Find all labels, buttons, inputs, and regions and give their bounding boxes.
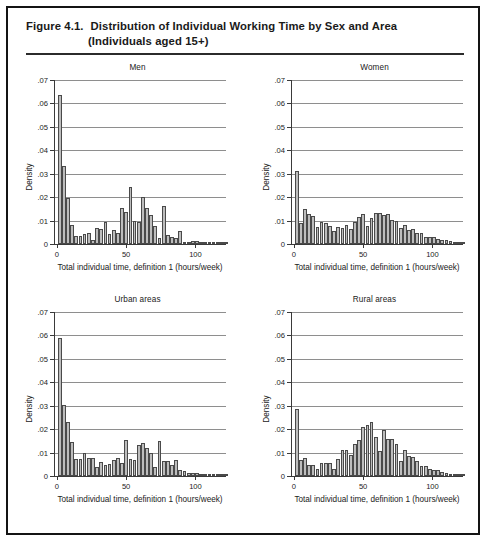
y-tick-label: .04 bbox=[274, 378, 285, 387]
x-tick-mark bbox=[57, 476, 58, 480]
y-tick-label: 0 bbox=[281, 472, 285, 481]
panel-women: WomenDensity0.01.02.03.04.05.06.07050100… bbox=[245, 58, 482, 295]
y-tick-label: .07 bbox=[37, 76, 48, 85]
y-tick-label: .04 bbox=[37, 146, 48, 155]
y-tick-label: .05 bbox=[37, 354, 48, 363]
figure-container: Figure 4.1. Distribution of Individual W… bbox=[6, 6, 480, 535]
x-tick-mark bbox=[195, 476, 196, 480]
y-tick-label: .05 bbox=[274, 122, 285, 131]
plot-area: 0.01.02.03.04.05.06.07050100 bbox=[54, 312, 226, 476]
y-tick-label: .04 bbox=[37, 378, 48, 387]
x-tick-mark bbox=[294, 476, 295, 480]
histogram-bars bbox=[55, 80, 226, 244]
panel-title: Rural areas bbox=[245, 295, 482, 304]
x-axis-label: Total individual time, definition 1 (hou… bbox=[291, 495, 463, 504]
panel-rural-areas: Rural areasDensity0.01.02.03.04.05.06.07… bbox=[245, 290, 482, 527]
x-tick-mark bbox=[126, 476, 127, 480]
x-tick-label: 0 bbox=[55, 250, 59, 259]
y-axis-label: Density bbox=[25, 395, 34, 422]
x-tick-label: 100 bbox=[426, 250, 439, 259]
x-tick-label: 0 bbox=[292, 250, 296, 259]
histogram-bar bbox=[461, 242, 465, 244]
panel-title: Urban areas bbox=[8, 295, 245, 304]
y-tick-label: .07 bbox=[37, 308, 48, 317]
y-tick-label: .06 bbox=[274, 99, 285, 108]
y-tick-label: .03 bbox=[37, 401, 48, 410]
y-tick-label: 0 bbox=[44, 240, 48, 249]
panel-title: Women bbox=[245, 63, 482, 72]
x-tick-mark bbox=[432, 476, 433, 480]
figure-title-row: Figure 4.1. Distribution of Individual W… bbox=[26, 19, 464, 34]
histogram-bar bbox=[224, 474, 228, 476]
x-tick-label: 100 bbox=[189, 482, 202, 491]
y-tick-label: .05 bbox=[274, 354, 285, 363]
x-tick-mark bbox=[363, 244, 364, 248]
x-axis-label: Total individual time, definition 1 (hou… bbox=[291, 263, 463, 272]
y-tick-label: 0 bbox=[44, 472, 48, 481]
x-tick-mark bbox=[432, 244, 433, 248]
x-tick-mark bbox=[195, 244, 196, 248]
x-tick-mark bbox=[294, 244, 295, 248]
y-tick-label: .02 bbox=[37, 425, 48, 434]
histogram-bar bbox=[224, 242, 228, 244]
y-tick-label: .07 bbox=[274, 308, 285, 317]
y-tick-label: .05 bbox=[37, 122, 48, 131]
x-tick-mark bbox=[363, 476, 364, 480]
histogram-bars bbox=[292, 80, 463, 244]
figure-title: Distribution of Individual Working Time … bbox=[91, 19, 398, 34]
y-tick-label: .06 bbox=[37, 331, 48, 340]
x-tick-label: 50 bbox=[122, 250, 130, 259]
x-tick-label: 50 bbox=[122, 482, 130, 491]
plot-area: 0.01.02.03.04.05.06.07050100 bbox=[54, 80, 226, 244]
figure-number: Figure 4.1. bbox=[26, 19, 84, 34]
y-tick-label: .01 bbox=[37, 216, 48, 225]
y-tick-label: .01 bbox=[274, 216, 285, 225]
plot-area: 0.01.02.03.04.05.06.07050100 bbox=[291, 312, 463, 476]
x-tick-label: 50 bbox=[359, 250, 367, 259]
x-tick-mark bbox=[126, 244, 127, 248]
y-tick-label: .06 bbox=[37, 99, 48, 108]
figure-subtitle: (Individuals aged 15+) bbox=[88, 34, 464, 49]
x-tick-label: 50 bbox=[359, 482, 367, 491]
y-tick-label: .02 bbox=[37, 193, 48, 202]
panel-men: MenDensity0.01.02.03.04.05.06.07050100To… bbox=[8, 58, 245, 295]
y-axis-label: Density bbox=[25, 163, 34, 190]
panel-title: Men bbox=[8, 63, 245, 72]
x-tick-label: 100 bbox=[426, 482, 439, 491]
x-axis-label: Total individual time, definition 1 (hou… bbox=[54, 495, 226, 504]
x-tick-label: 0 bbox=[55, 482, 59, 491]
figure-title-block: Figure 4.1. Distribution of Individual W… bbox=[8, 8, 478, 49]
y-tick-label: .02 bbox=[274, 425, 285, 434]
histogram-bar bbox=[461, 474, 465, 476]
x-tick-mark bbox=[57, 244, 58, 248]
y-tick-label: .03 bbox=[274, 169, 285, 178]
plot-area: 0.01.02.03.04.05.06.07050100 bbox=[291, 80, 463, 244]
y-tick-label: .01 bbox=[274, 448, 285, 457]
y-tick-label: .02 bbox=[274, 193, 285, 202]
histogram-bars bbox=[55, 312, 226, 476]
y-tick-label: .04 bbox=[274, 146, 285, 155]
y-tick-label: .06 bbox=[274, 331, 285, 340]
y-tick-label: .07 bbox=[274, 76, 285, 85]
x-tick-label: 100 bbox=[189, 250, 202, 259]
x-axis-label: Total individual time, definition 1 (hou… bbox=[54, 263, 226, 272]
y-tick-label: 0 bbox=[281, 240, 285, 249]
y-tick-label: .03 bbox=[274, 401, 285, 410]
y-axis-label: Density bbox=[262, 395, 271, 422]
y-axis-label: Density bbox=[262, 163, 271, 190]
y-tick-label: .01 bbox=[37, 448, 48, 457]
y-tick-label: .03 bbox=[37, 169, 48, 178]
title-divider bbox=[26, 53, 464, 55]
panel-grid: MenDensity0.01.02.03.04.05.06.07050100To… bbox=[8, 58, 482, 533]
histogram-bars bbox=[292, 312, 463, 476]
x-tick-label: 0 bbox=[292, 482, 296, 491]
panel-urban-areas: Urban areasDensity0.01.02.03.04.05.06.07… bbox=[8, 290, 245, 527]
